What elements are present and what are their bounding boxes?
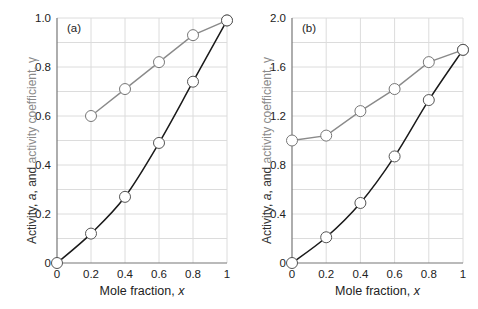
x-tick-label: 0.4 (117, 268, 134, 280)
series-gamma (292, 50, 463, 141)
y-tick-label: 1.0 (35, 12, 51, 24)
data-point-marker (154, 57, 165, 68)
y-tick-label: 2.0 (270, 12, 286, 24)
grid-lines (292, 18, 463, 263)
activity-charts: 00.20.40.60.8100.20.40.60.81.0(a)Mole fr… (0, 0, 478, 309)
chart-panel-b: 00.20.40.60.8100.40.81.21.62.0(b)Mole fr… (260, 12, 469, 298)
data-point-marker (287, 258, 298, 269)
data-point-marker (423, 57, 434, 68)
x-tick-label: 0.8 (421, 268, 437, 280)
data-point-marker (86, 228, 97, 239)
x-tick-label: 0.2 (83, 268, 99, 280)
x-axis-label: Mole fraction, x (100, 284, 186, 298)
y-tick-label: 0 (45, 257, 51, 269)
data-point-marker (86, 111, 97, 122)
series-activity (292, 50, 463, 263)
panel-label: (b) (302, 22, 316, 34)
series-activity (57, 20, 227, 263)
data-point-marker (222, 15, 233, 26)
data-point-marker (355, 106, 366, 117)
markers-activity (52, 15, 233, 269)
data-point-marker (52, 258, 63, 269)
x-axis-label: Mole fraction, x (335, 284, 421, 298)
data-point-marker (321, 232, 332, 243)
data-point-marker (321, 130, 332, 141)
data-point-marker (120, 191, 131, 202)
x-tick-label: 0.6 (151, 268, 167, 280)
data-point-marker (154, 137, 165, 148)
markers-gamma (287, 44, 469, 146)
x-tick-label: 1 (224, 268, 230, 280)
x-tick-label: 0.6 (387, 268, 403, 280)
y-axis-label: Activity, a, and activity coefficient, γ (25, 57, 39, 244)
x-tick-label: 0 (289, 268, 295, 280)
chart-panel-a: 00.20.40.60.8100.20.40.60.81.0(a)Mole fr… (25, 12, 233, 298)
x-tick-label: 0.4 (352, 268, 369, 280)
data-point-marker (423, 95, 434, 106)
data-point-marker (188, 76, 199, 87)
markers-activity (287, 44, 469, 268)
data-point-marker (355, 197, 366, 208)
grid-lines (57, 18, 227, 263)
data-point-marker (458, 44, 469, 55)
panel-label: (a) (67, 22, 81, 34)
data-point-marker (389, 84, 400, 95)
x-tick-label: 0.2 (318, 268, 334, 280)
data-point-marker (120, 84, 131, 95)
data-point-marker (389, 151, 400, 162)
data-point-marker (287, 135, 298, 146)
y-axis-label: Activity, a, and activity coefficient, γ (260, 57, 274, 244)
y-tick-label: 0 (280, 257, 286, 269)
data-point-marker (188, 30, 199, 41)
x-tick-label: 1 (460, 268, 466, 280)
x-tick-label: 0.8 (185, 268, 201, 280)
x-tick-label: 0 (54, 268, 60, 280)
